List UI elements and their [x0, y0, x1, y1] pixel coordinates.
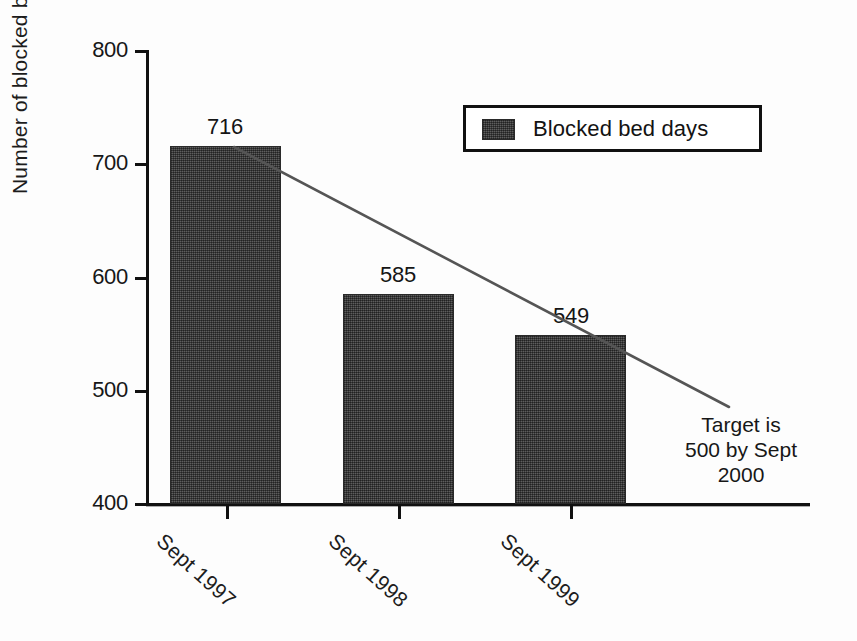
y-tick-label-500: 500 — [70, 377, 128, 403]
bar-value-sept-1998: 585 — [363, 262, 433, 288]
y-tick-label-700-wrap: 700 — [70, 150, 128, 176]
x-axis-line-shadow — [146, 506, 810, 507]
chart-legend: Blocked bed days — [463, 105, 762, 152]
x-axis-label-sept-1998: Sept 1998 — [324, 529, 413, 612]
bar-value-sept-1997: 716 — [190, 114, 260, 140]
y-tick-label-400-wrap: 400 — [70, 490, 128, 516]
bar-sept-1997 — [170, 146, 281, 504]
target-annotation-line-3: 2000 — [656, 462, 826, 487]
target-annotation-line-1: Target is — [656, 412, 826, 437]
y-tick-mark-700 — [135, 163, 147, 166]
bar-value-sept-1999: 549 — [536, 303, 606, 329]
y-tick-mark-500 — [135, 390, 147, 393]
y-tick-label-800-wrap: 800 — [70, 37, 128, 63]
y-tick-label-500-wrap: 500 — [70, 377, 128, 403]
target-trend-line — [234, 147, 729, 407]
bar-sept-1998 — [343, 294, 454, 504]
y-tick-mark-800 — [135, 50, 147, 53]
x-axis-label-sept-1999: Sept 1999 — [496, 529, 585, 612]
x-tick-mark-sept-1998 — [398, 506, 401, 519]
x-axis-label-sept-1997: Sept 1997 — [152, 529, 241, 612]
y-axis-title: Number of blocked bed days — [8, 0, 42, 194]
legend-label-blocked-bed-days: Blocked bed days — [533, 116, 708, 142]
x-tick-mark-sept-1997 — [226, 506, 229, 519]
chart-canvas: Number of blocked bed days 800 700 600 5… — [0, 0, 857, 641]
y-tick-label-800: 800 — [70, 37, 128, 63]
y-tick-label-700: 700 — [70, 150, 128, 176]
target-annotation: Target is 500 by Sept 2000 — [656, 412, 826, 487]
y-tick-label-600-wrap: 600 — [70, 264, 128, 290]
x-tick-mark-sept-1999 — [570, 506, 573, 519]
legend-color-swatch-blocked-bed-days — [482, 119, 515, 140]
target-annotation-line-2: 500 by Sept — [656, 437, 826, 462]
y-tick-label-400: 400 — [70, 490, 128, 516]
bar-sept-1999 — [515, 335, 626, 504]
y-tick-label-600: 600 — [70, 264, 128, 290]
y-tick-mark-600 — [135, 277, 147, 280]
y-tick-mark-400 — [135, 503, 147, 506]
